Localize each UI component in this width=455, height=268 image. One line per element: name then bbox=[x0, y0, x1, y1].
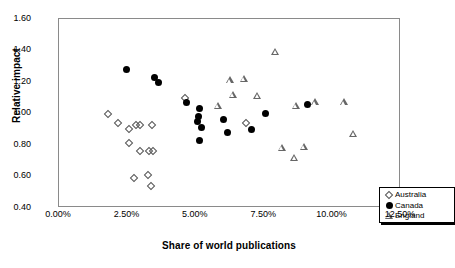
data-point-canada bbox=[196, 137, 203, 144]
data-point-england bbox=[311, 98, 319, 105]
data-point-canada bbox=[220, 116, 227, 123]
data-point-canada bbox=[123, 66, 130, 73]
x-axis-tick-label: 5.00% bbox=[165, 210, 225, 219]
data-point-england bbox=[292, 102, 300, 109]
data-point-england bbox=[278, 144, 286, 151]
data-point-england bbox=[290, 154, 298, 161]
y-axis-tick-label: 0.80 bbox=[0, 140, 31, 149]
data-point-australia bbox=[114, 119, 122, 127]
data-point-australia bbox=[146, 182, 154, 190]
x-axis-tick-label: 10.00% bbox=[302, 210, 362, 219]
data-point-canada bbox=[262, 110, 269, 117]
x-axis-tick-label: 0.00% bbox=[28, 210, 88, 219]
data-point-england bbox=[300, 143, 308, 150]
data-point-australia bbox=[125, 125, 133, 133]
data-point-england bbox=[349, 130, 357, 137]
data-point-australia bbox=[125, 139, 133, 147]
data-point-england bbox=[226, 76, 234, 83]
data-point-canada bbox=[248, 126, 255, 133]
data-point-england bbox=[214, 102, 222, 109]
y-axis-tick-label: 0.40 bbox=[0, 203, 31, 212]
data-point-england bbox=[253, 92, 261, 99]
data-point-canada bbox=[224, 129, 231, 136]
data-point-england bbox=[240, 75, 248, 82]
y-axis-tick-label: 1.40 bbox=[0, 45, 31, 54]
data-point-australia bbox=[149, 147, 157, 155]
data-point-canada bbox=[183, 99, 190, 106]
data-point-canada bbox=[198, 124, 205, 131]
data-point-england bbox=[271, 48, 279, 55]
x-axis-tick-label: 12.50% bbox=[370, 210, 430, 219]
data-point-australia bbox=[144, 171, 152, 179]
y-axis-tick-label: 1.00 bbox=[0, 108, 31, 117]
legend-label: Australia bbox=[395, 191, 426, 199]
legend-item: Australia bbox=[383, 190, 451, 201]
data-point-australia bbox=[135, 147, 143, 155]
plot-area: Australia Canada England bbox=[58, 18, 400, 207]
x-axis-tick-label: 2.50% bbox=[96, 210, 156, 219]
data-point-england bbox=[340, 98, 348, 105]
data-point-australia bbox=[148, 120, 156, 128]
data-point-canada bbox=[196, 105, 203, 112]
legend-marker-open-diamond-icon bbox=[383, 190, 395, 200]
y-axis-tick-label: 1.20 bbox=[0, 77, 31, 86]
y-axis-tick-label: 0.60 bbox=[0, 171, 31, 180]
data-point-australia bbox=[104, 109, 112, 117]
y-axis-tick-label: 1.60 bbox=[0, 14, 31, 23]
x-axis-title: Share of world publications bbox=[58, 240, 400, 251]
data-point-australia bbox=[130, 174, 138, 182]
x-axis-tick-label: 7.50% bbox=[233, 210, 293, 219]
data-point-england bbox=[229, 91, 237, 98]
data-point-canada bbox=[155, 79, 162, 86]
